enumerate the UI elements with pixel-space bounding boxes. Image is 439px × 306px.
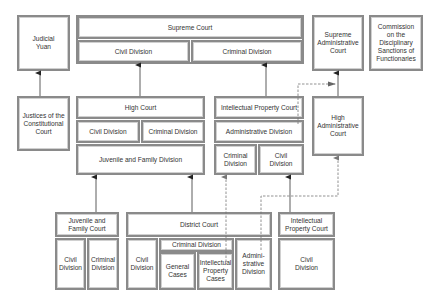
district-court-title: District Court [126,212,272,237]
ip-court-lower-title: Intellectual Property Court [278,212,335,237]
supreme-administrative-court-box: Supreme Administrative Court [312,15,364,71]
district-court-criminal-division: Criminal Division [159,238,234,252]
juvenile-family-court-civil-division: Civil Division [55,238,86,290]
district-court-civil-division: Civil Division [126,238,158,290]
district-court-ip-cases: Intellectual Property Cases [197,252,234,290]
ip-court-title: Intellectual Property Court [214,96,304,119]
district-court-general-cases: General Cases [159,252,196,290]
ip-court-civil-division: Civil Division [258,144,304,175]
high-court-civil-division: Civil Division [76,120,140,143]
supreme-court-criminal-division: Criminal Division [191,40,303,63]
judicial-yuan-box: Judicial Yuan [17,15,70,71]
juvenile-family-court-criminal-division: Criminal Division [87,238,119,290]
juvenile-family-court-title: Juvenile and Family Court [55,212,119,237]
ip-court-lower-civil-division: Civil Division [278,238,335,290]
justices-constitutional-court-box: Justices of the Constitutional Court [17,96,70,151]
district-court-administrative-division: Admini- strative Division [235,238,272,290]
supreme-court-title: Supreme Court [77,16,303,39]
supreme-court-civil-division: Civil Division [77,40,190,63]
high-court-criminal-division: Criminal Division [141,120,205,143]
high-court-juvenile-family-division: Juvenile and Family Division [76,144,205,175]
high-administrative-court-box: High Administrative Court [312,96,364,156]
high-court-title: High Court [76,96,205,119]
ip-court-criminal-division: Criminal Division [214,144,257,175]
ip-court-administrative-division: Administrative Division [214,120,304,143]
commission-disciplinary-sanctions-box: Commission on the Disciplinary Sanctions… [369,15,423,71]
